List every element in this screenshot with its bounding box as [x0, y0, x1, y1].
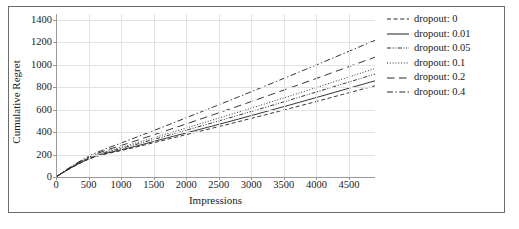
series-line — [56, 57, 375, 177]
x-tick-label: 3500 — [273, 180, 294, 191]
x-gridline — [154, 14, 155, 177]
x-gridline — [219, 14, 220, 177]
legend-label: dropout: 0.05 — [414, 43, 471, 54]
y-tick-mark — [53, 132, 56, 133]
y-gridline — [56, 87, 375, 88]
legend-item[interactable]: dropout: 0.1 — [386, 56, 502, 71]
x-tick-label: 3000 — [241, 180, 262, 191]
legend-label: dropout: 0.1 — [414, 58, 465, 69]
figure-container: 0200400600800100012001400 Cumulative Reg… — [0, 0, 519, 229]
legend-line-sample — [386, 73, 410, 83]
series-line — [56, 69, 375, 177]
y-tick-label: 400 — [36, 127, 52, 138]
y-tick-label: 1400 — [31, 14, 52, 25]
legend-label: dropout: 0 — [414, 14, 457, 25]
y-tick-mark — [53, 20, 56, 21]
legend-line-sample — [386, 43, 410, 53]
x-gridline — [316, 14, 317, 177]
x-gridline — [251, 14, 252, 177]
legend-line-sample — [386, 87, 410, 97]
x-tick-label: 500 — [81, 180, 97, 191]
y-axis-title: Cumulative Regret — [10, 42, 22, 162]
x-tick-label: 2500 — [208, 180, 229, 191]
y-gridline — [56, 155, 375, 156]
x-tick-label: 2000 — [176, 180, 197, 191]
y-gridline — [56, 42, 375, 43]
y-tick-mark — [53, 42, 56, 43]
x-tick-label: 4000 — [306, 180, 327, 191]
y-tick-label: 0 — [47, 172, 52, 183]
y-tick-mark — [53, 177, 56, 178]
y-tick-mark — [53, 65, 56, 66]
x-gridline — [186, 14, 187, 177]
legend-label: dropout: 0.4 — [414, 87, 465, 98]
x-tick-label: 0 — [53, 180, 58, 191]
y-gridline — [56, 65, 375, 66]
y-tick-mark — [53, 87, 56, 88]
y-axis-line — [56, 14, 57, 178]
legend-line-sample — [386, 58, 410, 68]
x-gridline — [121, 14, 122, 177]
x-tick-label: 1000 — [111, 180, 132, 191]
legend-line-sample — [386, 14, 410, 24]
y-tick-label: 200 — [36, 149, 52, 160]
legend-label: dropout: 0.2 — [414, 72, 465, 83]
x-axis-line — [56, 177, 375, 178]
series-lines — [56, 14, 375, 177]
x-gridline — [349, 14, 350, 177]
x-gridline — [89, 14, 90, 177]
y-tick-mark — [53, 110, 56, 111]
x-tick-label: 4500 — [338, 180, 359, 191]
y-tick-mark — [53, 155, 56, 156]
series-line — [56, 81, 375, 177]
legend-item[interactable]: dropout: 0.01 — [386, 27, 502, 42]
y-gridline — [56, 110, 375, 111]
plot-area — [56, 14, 375, 177]
legend-item[interactable]: dropout: 0.05 — [386, 41, 502, 56]
legend-item[interactable]: dropout: 0.2 — [386, 70, 502, 85]
x-axis-title: Impressions — [56, 194, 375, 206]
legend-line-sample — [386, 29, 410, 39]
y-gridline — [56, 20, 375, 21]
legend: dropout: 0dropout: 0.01dropout: 0.05drop… — [386, 12, 502, 100]
y-tick-label: 800 — [36, 82, 52, 93]
y-gridline — [56, 132, 375, 133]
legend-item[interactable]: dropout: 0 — [386, 12, 502, 27]
x-gridline — [284, 14, 285, 177]
y-tick-label: 1200 — [31, 37, 52, 48]
y-tick-label: 1000 — [31, 59, 52, 70]
y-axis-tick-labels: 0200400600800100012001400 — [0, 0, 52, 229]
legend-label: dropout: 0.01 — [414, 29, 471, 40]
y-tick-label: 600 — [36, 104, 52, 115]
legend-item[interactable]: dropout: 0.4 — [386, 85, 502, 100]
x-tick-label: 1500 — [143, 180, 164, 191]
